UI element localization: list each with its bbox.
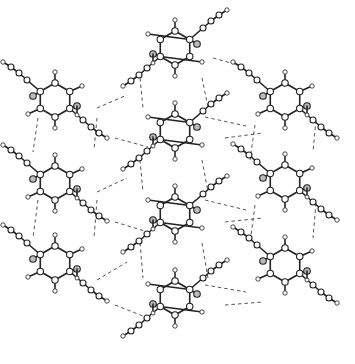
hydrogen-bond xyxy=(33,118,38,152)
carbon-atom xyxy=(267,170,273,176)
molecule xyxy=(121,174,229,254)
hydrogen-atom xyxy=(310,166,314,170)
carbon-atom xyxy=(297,187,303,193)
hydrogen-bond xyxy=(202,243,208,278)
hydrogen-atom xyxy=(53,289,57,293)
carbon-atom xyxy=(187,53,193,59)
hydrogen-atom xyxy=(53,233,57,237)
carbon-atom xyxy=(282,114,288,120)
carbon-atom xyxy=(52,80,58,86)
hydrogen-atom xyxy=(173,184,177,188)
chain-atom xyxy=(216,95,222,101)
chain-atom xyxy=(310,282,316,288)
hydrogen-atom xyxy=(146,198,150,202)
hydrogen-atom xyxy=(200,60,204,64)
carbon-atom xyxy=(282,80,288,86)
chain-atom xyxy=(246,70,252,76)
hydrogen-atom xyxy=(310,249,314,253)
molecule-layer xyxy=(1,8,339,338)
molecule xyxy=(121,258,229,338)
chain-atom xyxy=(216,262,222,268)
hydrogen-atom xyxy=(173,74,177,78)
chain-atom xyxy=(96,213,102,219)
hydrogen-bond xyxy=(313,120,316,152)
oxygen-atom xyxy=(194,291,201,298)
carbon-atom xyxy=(172,194,178,200)
molecule xyxy=(1,60,109,140)
chain-atom xyxy=(208,18,214,24)
carbon-atom xyxy=(187,119,193,125)
chain-atom xyxy=(310,117,316,123)
hydrogen-atom xyxy=(200,310,204,314)
chain-atom xyxy=(208,268,214,274)
crystal-packing-figure xyxy=(0,0,355,364)
hydrogen-atom xyxy=(26,275,30,279)
chain-atom xyxy=(231,142,235,146)
hydrogen-atom xyxy=(283,152,287,156)
chain-atom xyxy=(128,161,134,167)
chain-atom xyxy=(238,146,244,152)
chain-atom xyxy=(121,334,125,338)
chain-atom xyxy=(136,72,142,78)
oxygen-atom xyxy=(260,93,267,100)
chain-atom xyxy=(121,250,125,254)
oxygen-atom xyxy=(30,93,37,100)
chain-atom xyxy=(8,227,14,233)
carbon-atom xyxy=(297,253,303,259)
hydrogen-bond xyxy=(115,222,148,232)
oxygen-atom xyxy=(260,175,267,182)
chain-atom xyxy=(16,70,22,76)
carbon-atom xyxy=(282,196,288,202)
chain-atom xyxy=(225,258,229,262)
chain-atom xyxy=(254,77,260,83)
chain-atom xyxy=(128,328,134,334)
chain-atom xyxy=(144,315,150,321)
hydrogen-atom xyxy=(146,115,150,119)
hydrogen-atom xyxy=(26,195,30,199)
chain-atom xyxy=(136,238,142,244)
molecule xyxy=(1,143,109,223)
chain-atom xyxy=(225,91,229,95)
carbon-atom xyxy=(267,105,273,111)
carbon-atom xyxy=(172,111,178,117)
chain-atom xyxy=(254,159,260,165)
carbon-atom xyxy=(67,88,73,94)
hydrogen-atom xyxy=(200,143,204,147)
hydrogen-bond xyxy=(97,262,127,280)
hydrogen-bond xyxy=(202,78,208,107)
molecule xyxy=(121,91,229,171)
chain-atom xyxy=(1,143,5,147)
carbon-atom xyxy=(52,243,58,249)
hydrogen-bond xyxy=(205,117,246,126)
molecule xyxy=(231,225,339,305)
hydrogen-bond xyxy=(202,160,208,192)
carbon-atom xyxy=(157,202,163,208)
hydrogen-atom xyxy=(283,126,287,130)
chain-atom xyxy=(238,229,244,235)
carbon-atom xyxy=(282,279,288,285)
carbon-atom xyxy=(37,268,43,274)
chain-atom xyxy=(238,64,244,70)
molecule xyxy=(121,8,229,88)
chain-atom xyxy=(246,152,252,158)
carbon-atom xyxy=(172,278,178,284)
chain-atom xyxy=(310,199,316,205)
hydrogen-atom xyxy=(173,18,177,22)
hydrogen-atom xyxy=(80,247,84,251)
hydrogen-atom xyxy=(256,194,260,198)
carbon-atom xyxy=(267,253,273,259)
carbon-atom xyxy=(37,188,43,194)
chain-atom xyxy=(105,219,109,223)
chain-atom xyxy=(128,78,134,84)
chain-atom xyxy=(88,207,94,213)
hydrogen-atom xyxy=(80,167,84,171)
chain-atom xyxy=(105,299,109,303)
carbon-atom xyxy=(157,36,163,42)
chain-atom xyxy=(216,12,222,18)
chain-atom xyxy=(80,200,86,206)
chain-atom xyxy=(96,293,102,299)
chain-atom xyxy=(335,301,339,305)
carbon-atom xyxy=(37,88,43,94)
carbon-atom xyxy=(52,163,58,169)
hydrogen-atom xyxy=(53,153,57,157)
